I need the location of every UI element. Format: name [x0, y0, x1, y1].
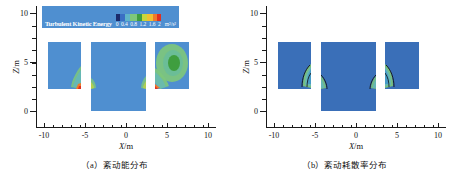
y-axis-title-b: Z/m: [241, 60, 251, 74]
colorbar-tick: 0.4: [121, 22, 128, 28]
x-tick-minor: [333, 125, 334, 128]
x-tick-minor: [194, 125, 195, 128]
colorbar-tick: 1.6: [149, 22, 156, 28]
x-tick-minor: [310, 125, 311, 128]
y-tick-minor: [32, 99, 36, 100]
colorbar-unit-a: m²/s²: [165, 22, 176, 28]
y-tick-label-5: 5: [254, 58, 258, 67]
x-tick-minor: [374, 125, 375, 128]
figure-sheet: 0 5 10 Z/m: [0, 0, 459, 182]
y-tick-label-5: 5: [24, 58, 28, 67]
x-tick-10: [438, 123, 439, 128]
x-tick-minor: [153, 125, 154, 128]
legend-title-a: Turbulent Kinetic Energy: [45, 21, 112, 28]
x-tick-label--10: -10: [269, 131, 280, 140]
x-tick-minor: [185, 125, 186, 128]
x-tick-label-10: 10: [434, 131, 442, 140]
x-tick-minor: [342, 125, 343, 128]
y-tick-minor: [262, 26, 266, 27]
x-tick-label-5: 5: [395, 131, 399, 140]
x-tick-minor: [324, 125, 325, 128]
y-tick-minor: [262, 75, 266, 76]
x-tick-5: [397, 123, 398, 128]
y-tick-minor: [32, 87, 36, 88]
contour-plot-b: [266, 6, 446, 128]
x-tick-minor: [144, 125, 145, 128]
x-tick-label--10: -10: [39, 131, 50, 140]
y-tick-minor: [32, 26, 36, 27]
x-tick--10: [274, 123, 275, 128]
x-tick-minor: [283, 125, 284, 128]
x-axis-title-a: X/m: [119, 141, 133, 151]
colorbar-tick: 1.2: [139, 22, 146, 28]
x-tick-minor: [71, 125, 72, 128]
x-tick-minor: [365, 125, 366, 128]
x-tick-5: [167, 123, 168, 128]
x-tick-label--5: -5: [82, 131, 89, 140]
y-tick-minor: [32, 63, 36, 64]
x-tick-minor: [162, 125, 163, 128]
x-tick--5: [85, 123, 86, 128]
colorbar-legend-a: Turbulent Kinetic Energy 0 0.4 0.8 1.2 1…: [42, 6, 179, 28]
y-tick-0: [30, 111, 36, 112]
y-tick-minor: [32, 50, 36, 51]
y-tick-label-10: 10: [250, 9, 258, 18]
colorbar-tick: 2: [158, 22, 161, 28]
y-axis-a: [36, 6, 37, 128]
x-tick-label--5: -5: [312, 131, 319, 140]
x-tick-minor: [53, 125, 54, 128]
x-tick-minor: [433, 125, 434, 128]
plot-area-b: 0 5 10 Z/m: [266, 6, 446, 128]
x-tick--5: [315, 123, 316, 128]
colorbar-gradient-a: [116, 14, 161, 21]
y-tick-minor: [32, 38, 36, 39]
x-tick-label-5: 5: [165, 131, 169, 140]
x-tick-minor: [383, 125, 384, 128]
x-tick-minor: [406, 125, 407, 128]
x-tick-minor: [203, 125, 204, 128]
y-tick-label-10: 10: [20, 9, 28, 18]
panel-caption-a: （a）紊动能分布: [0, 158, 229, 170]
x-tick-minor: [94, 125, 95, 128]
panel-turbulent-kinetic-energy: 0 5 10 Z/m: [0, 0, 229, 182]
x-tick-minor: [301, 125, 302, 128]
y-tick-label-0: 0: [24, 107, 28, 116]
panel-caption-b: （b）紊动耗散率分布: [230, 158, 459, 170]
y-tick-label-0: 0: [254, 107, 258, 116]
y-axis-title-a: Z/m: [11, 60, 21, 74]
y-tick-minor: [32, 75, 36, 76]
y-tick-minor: [262, 50, 266, 51]
y-tick-minor: [262, 99, 266, 100]
contour-canvas-b: [266, 6, 446, 128]
x-tick-minor: [392, 125, 393, 128]
x-tick-minor: [135, 125, 136, 128]
x-tick-minor: [176, 125, 177, 128]
x-tick-0: [126, 123, 127, 128]
y-tick-5: [260, 62, 266, 63]
x-tick-minor: [121, 125, 122, 128]
y-tick-10: [260, 13, 266, 14]
x-tick-10: [208, 123, 209, 128]
x-tick-label-10: 10: [204, 131, 212, 140]
y-tick-10: [30, 13, 36, 14]
x-tick-minor: [424, 125, 425, 128]
x-tick-label-0: 0: [354, 131, 358, 140]
y-tick-minor: [262, 38, 266, 39]
y-tick-minor: [262, 87, 266, 88]
x-tick-minor: [112, 125, 113, 128]
x-tick-minor: [351, 125, 352, 128]
x-axis-title-b: X/m: [349, 141, 363, 151]
colorbar-tick: 0: [116, 22, 119, 28]
x-tick-minor: [103, 125, 104, 128]
x-tick-minor: [80, 125, 81, 128]
y-tick-0: [260, 111, 266, 112]
colorbar-tick: 0.8: [130, 22, 137, 28]
y-tick-5: [30, 62, 36, 63]
y-axis-b: [266, 6, 267, 128]
x-tick-minor: [62, 125, 63, 128]
panel-turbulent-dissipation-rate: 0 5 10 Z/m: [230, 0, 459, 182]
x-tick-minor: [415, 125, 416, 128]
x-tick-0: [356, 123, 357, 128]
colorbar-ticks-a: 0 0.4 0.8 1.2 1.6 2: [116, 22, 161, 28]
x-tick-minor: [292, 125, 293, 128]
